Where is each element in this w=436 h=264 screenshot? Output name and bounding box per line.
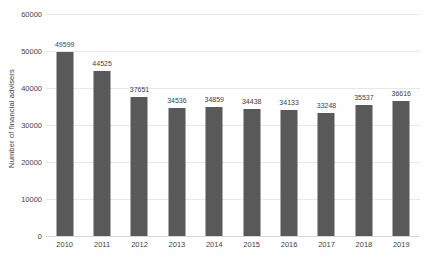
x-axis-tick-label: 2018 [356, 240, 373, 249]
gridline [46, 236, 420, 237]
x-axis-tick-label: 2013 [169, 240, 186, 249]
bar [206, 107, 223, 236]
y-axis-tick-label: 0 [2, 232, 42, 241]
bar-value-label: 34438 [242, 98, 261, 105]
y-axis-tick-label: 10000 [2, 195, 42, 204]
bar [281, 110, 298, 236]
x-axis-tick-labels: 2010201120122013201420152016201720182019 [46, 240, 420, 254]
bar-value-label: 44525 [92, 60, 111, 67]
bar [355, 105, 372, 236]
bar-group: 35537 [345, 14, 382, 236]
bar [243, 109, 260, 236]
bar-value-label: 33248 [317, 102, 336, 109]
y-axis-tick-label: 40000 [2, 84, 42, 93]
bar-group: 49599 [46, 14, 83, 236]
bar-group: 34536 [158, 14, 195, 236]
bar-value-label: 34536 [167, 97, 186, 104]
bar-value-label: 35537 [354, 94, 373, 101]
bar-group: 34438 [233, 14, 270, 236]
y-axis-tick-label: 30000 [2, 121, 42, 130]
y-axis-tick-label: 60000 [2, 10, 42, 19]
bars-layer: 4959944525376513453634859344383413333248… [46, 14, 420, 236]
bar-group: 37651 [121, 14, 158, 236]
bar-value-label: 37651 [130, 86, 149, 93]
bar-value-label: 34859 [205, 96, 224, 103]
bar-value-label: 49599 [55, 41, 74, 48]
x-axis-tick-label: 2014 [206, 240, 223, 249]
bar-group: 34859 [196, 14, 233, 236]
x-axis-tick-label: 2019 [393, 240, 410, 249]
bar [168, 108, 185, 236]
x-axis-tick-label: 2012 [131, 240, 148, 249]
x-axis-tick-label: 2010 [56, 240, 73, 249]
bar-value-label: 36616 [392, 90, 411, 97]
bar-value-label: 34133 [279, 99, 298, 106]
bar [131, 97, 148, 236]
bar-group: 33248 [308, 14, 345, 236]
bar [94, 71, 111, 236]
bar-chart: Number of financial advisers 01000020000… [0, 0, 436, 264]
y-axis-tick-label: 20000 [2, 158, 42, 167]
y-axis-tick-labels: 0100002000030000400005000060000 [0, 14, 42, 236]
bar-group: 34133 [270, 14, 307, 236]
y-axis-tick-label: 50000 [2, 47, 42, 56]
x-axis-tick-label: 2016 [281, 240, 298, 249]
x-axis-tick-label: 2015 [243, 240, 260, 249]
bar [393, 101, 410, 236]
bar [56, 52, 73, 236]
bar-group: 44525 [83, 14, 120, 236]
bar [318, 113, 335, 236]
x-axis-tick-label: 2011 [94, 240, 110, 249]
bar-group: 36616 [383, 14, 420, 236]
x-axis-tick-label: 2017 [318, 240, 335, 249]
